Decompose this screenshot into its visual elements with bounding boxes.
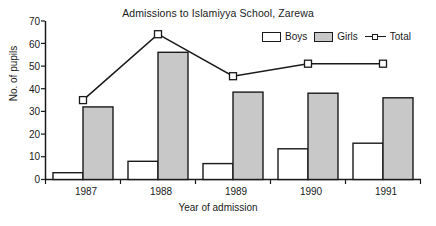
bar-girls-1990 — [308, 93, 338, 179]
bar-girls-1987 — [83, 107, 113, 180]
bars-group — [53, 52, 413, 179]
bar-girls-1988 — [158, 52, 188, 179]
bar-boys-1988 — [128, 161, 158, 179]
bar-girls-1989 — [233, 92, 263, 179]
chart-plot-area — [0, 0, 436, 226]
bar-boys-1990 — [278, 149, 308, 180]
bar-girls-1991 — [383, 98, 413, 180]
total-marker-1988 — [155, 31, 162, 38]
total-marker-1989 — [230, 73, 237, 80]
total-marker-1990 — [305, 60, 312, 67]
bar-boys-1991 — [353, 143, 383, 179]
total-marker-1987 — [80, 97, 87, 104]
total-marker-1991 — [380, 60, 387, 67]
chart-container: Admissions to Islamiyya School, Zarewa N… — [0, 0, 436, 226]
bar-boys-1987 — [53, 173, 83, 180]
bar-boys-1989 — [203, 164, 233, 180]
